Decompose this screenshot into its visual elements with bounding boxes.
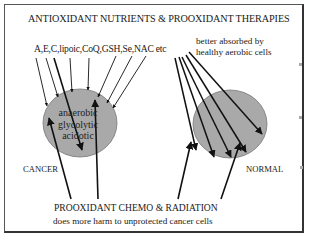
diagram-title: ANTIOXIDANT NUTRIENTS & PROOXIDANT THERA… xyxy=(28,14,290,24)
inner-text-line: anaerobic xyxy=(52,107,104,119)
absorption-note: better absorbed by healthy aerobic cells xyxy=(196,36,272,58)
inner-text-line: glycolytic xyxy=(52,119,104,131)
normal-label: NORMAL xyxy=(246,165,283,174)
normal-cell xyxy=(193,90,267,158)
cancer-cell-inner-text: anaerobic glycolytic acidotic xyxy=(52,107,104,142)
absorption-note-line1: better absorbed by xyxy=(196,36,272,47)
speck xyxy=(300,166,303,169)
absorption-note-line2: healthy aerobic cells xyxy=(196,47,272,58)
antioxidant-agents-label: A,E,C,lipoic,CoQ,GSH,Se,NAC etc xyxy=(34,44,166,54)
speck xyxy=(299,63,302,66)
cancer-label: CANCER xyxy=(23,165,58,174)
inner-text-line: acidotic xyxy=(52,130,104,142)
speck xyxy=(299,116,302,119)
prooxidant-note: does more harm to unprotected cancer cel… xyxy=(53,217,213,226)
prooxidant-title: PROOXIDANT CHEMO & RADIATION xyxy=(54,203,218,213)
